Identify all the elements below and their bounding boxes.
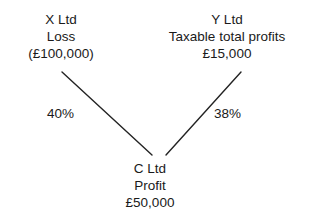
node-x-ltd: X Ltd Loss (£100,000)	[0, 11, 122, 62]
connector-x-ltd-to-c-ltd	[62, 72, 152, 155]
node-x-ltd-amount: (£100,000)	[0, 45, 122, 62]
node-y-ltd: Y Ltd Taxable total profits £15,000	[147, 11, 307, 62]
node-c-ltd: C Ltd Profit £50,000	[70, 160, 230, 211]
node-y-ltd-amount: £15,000	[147, 45, 307, 62]
node-c-ltd-descriptor: Profit	[70, 177, 230, 194]
node-x-ltd-name: X Ltd	[0, 11, 122, 28]
group-relief-diagram: X Ltd Loss (£100,000) Y Ltd Taxable tota…	[0, 0, 315, 221]
node-x-ltd-descriptor: Loss	[0, 28, 122, 45]
node-c-ltd-name: C Ltd	[70, 160, 230, 177]
node-y-ltd-descriptor: Taxable total profits	[147, 28, 307, 45]
node-c-ltd-amount: £50,000	[70, 194, 230, 211]
connector-label-x-ltd-to-c-ltd: 40%	[47, 106, 74, 121]
connector-label-y-ltd-to-c-ltd: 38%	[214, 106, 241, 121]
node-y-ltd-name: Y Ltd	[147, 11, 307, 28]
